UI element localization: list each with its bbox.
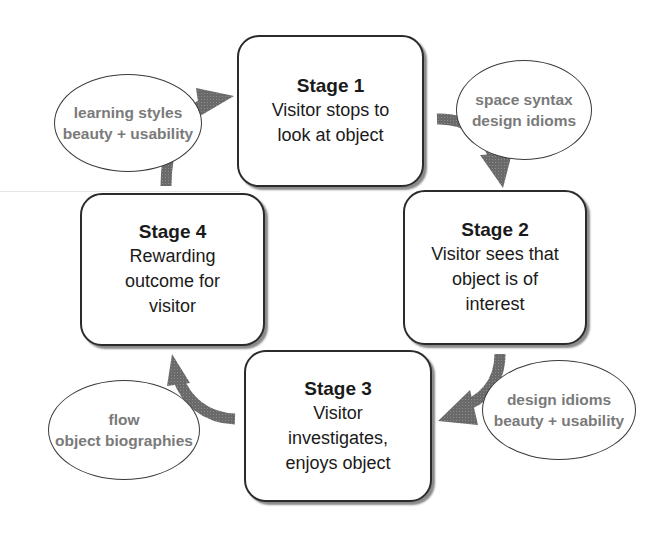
stage-4-desc-line-3: visitor: [149, 294, 196, 319]
note-design-idioms: design idioms beauty + usability: [482, 360, 636, 460]
note-line: beauty + usability: [494, 410, 625, 431]
stage-1-box: Stage 1 Visitor stops to look at object: [237, 35, 424, 187]
stage-2-desc-line-3: interest: [465, 292, 524, 317]
stage-3-desc-line-3: enjoys object: [285, 451, 390, 476]
note-line: design idioms: [472, 110, 576, 131]
stage-2-title: Stage 2: [461, 218, 529, 242]
note-space-syntax: space syntax design idioms: [456, 60, 592, 160]
stage-4-desc-line-2: outcome for: [125, 269, 220, 294]
stage-1-desc-line-1: Visitor stops to: [272, 98, 390, 123]
stage-4-box: Stage 4 Rewarding outcome for visitor: [80, 193, 265, 346]
stage-3-desc-line-1: Visitor: [313, 401, 363, 426]
note-learning-styles: learning styles beauty + usability: [54, 74, 202, 172]
stage-1-title: Stage 1: [297, 74, 365, 98]
stage-2-desc-line-1: Visitor sees that: [431, 242, 559, 267]
note-line: learning styles: [74, 102, 183, 123]
note-line: design idioms: [507, 389, 611, 410]
stage-4-title: Stage 4: [139, 220, 207, 244]
stage-3-box: Stage 3 Visitor investigates, enjoys obj…: [244, 350, 432, 502]
note-line: object biographies: [55, 430, 193, 451]
note-line: space syntax: [475, 89, 572, 110]
stage-4-desc-line-1: Rewarding: [129, 244, 215, 269]
stage-2-box: Stage 2 Visitor sees that object is of i…: [403, 190, 587, 345]
note-line: flow: [109, 409, 140, 430]
note-flow: flow object biographies: [48, 380, 200, 480]
stage-3-title: Stage 3: [304, 377, 372, 401]
stage-2-desc-line-2: object is of: [452, 267, 538, 292]
stage-3-desc-line-2: investigates,: [288, 426, 388, 451]
stage-1-desc-line-2: look at object: [277, 123, 383, 148]
note-line: beauty + usability: [63, 123, 194, 144]
